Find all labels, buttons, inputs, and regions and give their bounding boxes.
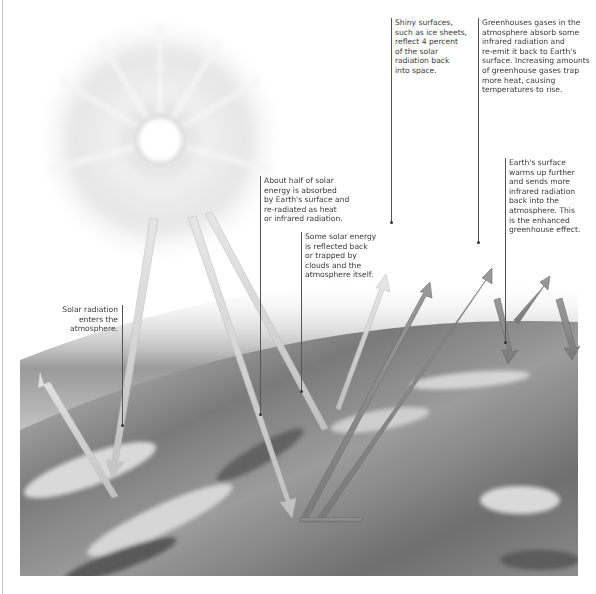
leader-enhanced [505,158,506,342]
leader-dot [259,413,262,416]
leader-dot [390,221,393,224]
leader-dot [121,424,124,427]
caption-greenhouse-gases: Greenhouses gases in the atmosphere abso… [482,18,590,95]
caption-shiny-surfaces: Shiny surfaces, such as ice sheets, refl… [395,18,467,76]
leader-absorbed [260,176,261,414]
leader-shiny [391,18,392,222]
caption-reflected-clouds: Some solar energy is reflected back or t… [305,232,376,280]
leader-dot [300,390,303,393]
caption-enhanced-effect: Earth's surface warms up further and sen… [509,158,580,235]
leader-reflected-clouds [301,232,302,392]
caption-solar-entry: Solar radiation enters the atmosphere. [62,305,118,334]
caption-absorbed: About half of solar energy is absorbed b… [264,176,349,224]
leader-dot [477,241,480,244]
sun-icon [35,15,285,265]
leader-solar-entry [122,305,123,425]
leader-greenhouse [478,18,479,244]
leader-dot [504,341,507,344]
ir-base [300,518,362,522]
